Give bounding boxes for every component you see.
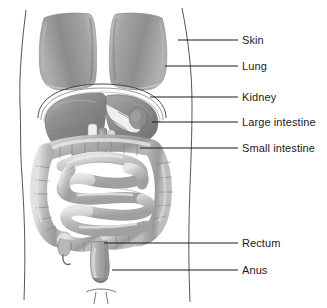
label-small-intestine: Small intestine <box>242 143 315 154</box>
label-lung: Lung <box>242 61 267 72</box>
label-skin: Skin <box>242 35 264 46</box>
label-kidney: Kidney <box>242 92 276 103</box>
anus <box>86 278 116 304</box>
label-anus: Anus <box>242 265 267 276</box>
anatomy-illustration <box>0 0 327 308</box>
lung-left <box>109 13 166 90</box>
rectum <box>91 241 110 283</box>
lung-right <box>39 13 96 90</box>
label-large-intestine: Large intestine <box>242 117 316 128</box>
anatomy-figure-page: SkinLungKidneyLarge intestineSmall intes… <box>0 0 327 308</box>
label-rectum: Rectum <box>242 238 281 249</box>
